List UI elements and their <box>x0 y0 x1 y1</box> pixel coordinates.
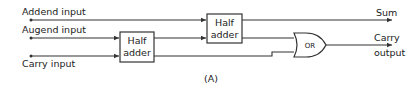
sum-label: Sum <box>376 7 397 18</box>
half-adder-2: Half adder <box>207 14 242 43</box>
half-adder-1: Half adder <box>120 32 154 62</box>
augend-input-label: Augend input <box>22 24 86 35</box>
figure-caption: (A) <box>204 73 218 84</box>
ha1-carry-wire <box>154 52 294 56</box>
half-adder-1-label-line2: adder <box>123 47 151 58</box>
or-gate: OR <box>294 33 326 57</box>
carry-output-label-line1: Carry <box>374 32 400 43</box>
full-adder-diagram: Addend input Augend input Carry input Ha… <box>0 0 418 88</box>
half-adder-2-label-line1: Half <box>215 17 235 28</box>
addend-input-label: Addend input <box>22 6 86 17</box>
carry-input-label: Carry input <box>22 58 75 69</box>
half-adder-1-label-line1: Half <box>128 35 148 46</box>
half-adder-2-label-line2: adder <box>211 29 239 40</box>
carry-output-label-line2: output <box>374 47 406 58</box>
or-gate-label: OR <box>305 42 316 50</box>
